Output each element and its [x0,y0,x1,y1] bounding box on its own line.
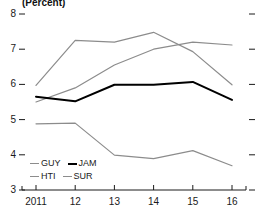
legend-item-hti[interactable]: HTI [30,172,56,181]
y-tick-label: 3 [4,185,16,195]
x-axis-line [22,186,246,190]
y-tick-label: 4 [4,150,16,160]
legend-row: GUYJAM [30,157,104,170]
y-axis-ticks [19,14,25,190]
legend-item-jam[interactable]: JAM [68,159,97,168]
y-tick-label: 8 [4,9,16,19]
legend-label-guy: GUY [41,159,61,168]
legend-swatch-guy [30,163,39,164]
y-tick-label: 5 [4,115,16,125]
x-tick-label: 12 [70,197,81,207]
x-tick-label: 15 [187,197,198,207]
series-line-hti [36,32,232,85]
x-axis-ticks [36,185,232,190]
chart-legend: GUYJAMHTISUR [30,157,104,183]
legend-label-hti: HTI [41,172,56,181]
x-tick-label: 16 [226,197,237,207]
legend-item-sur[interactable]: SUR [63,172,93,181]
x-tick-label: 13 [109,197,120,207]
y-tick-label: 7 [4,44,16,54]
legend-row: HTISUR [30,170,104,183]
legend-label-sur: SUR [74,172,93,181]
legend-swatch-hti [30,176,39,177]
x-tick-label: 2011 [25,197,47,207]
legend-item-guy[interactable]: GUY [30,159,61,168]
series-lines [36,32,232,165]
y-tick-label: 6 [4,79,16,89]
chart-container: (Percent) 345678 20111213141516 GUYJAMHT… [0,0,261,215]
legend-swatch-jam [68,163,77,165]
legend-label-jam: JAM [79,159,97,168]
right-axis-ticks [249,14,255,190]
x-tick-label: 14 [148,197,159,207]
legend-swatch-sur [63,176,72,177]
